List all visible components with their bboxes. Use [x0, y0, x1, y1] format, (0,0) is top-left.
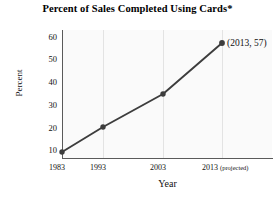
data-point-annotation: (2013, 57): [227, 38, 267, 48]
series-line-path: [62, 43, 222, 152]
data-point-1993: [100, 124, 105, 129]
data-point-2003: [160, 91, 165, 96]
chart-figure: Percent of Sales Completed Using Cards* …: [0, 0, 275, 201]
data-series-line: [0, 0, 275, 201]
data-point-1983: [59, 149, 64, 154]
data-point-2013: [219, 40, 225, 46]
